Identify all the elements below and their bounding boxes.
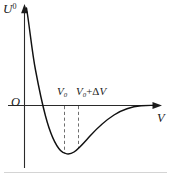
tick-label-v0-plus-dv-base: V <box>76 85 83 97</box>
origin-label: O <box>11 96 20 109</box>
tick-label-v0-plus-dv: V0+ΔV <box>76 86 106 98</box>
potential-energy-curve <box>27 8 154 154</box>
y-axis-label-base: U <box>3 1 12 16</box>
tick-label-v0-base: V <box>57 85 64 97</box>
tick-label-dv-var: V <box>99 85 106 97</box>
tick-label-v0: V0 <box>57 86 67 98</box>
x-axis-label: V <box>157 112 165 125</box>
y-axis-label: U0 <box>3 2 16 15</box>
y-axis-label-superscript: 0 <box>12 2 16 11</box>
figure-container: U0 O V V0 V0+ΔV <box>0 0 171 178</box>
tick-label-v0-subscript: 0 <box>64 91 67 98</box>
